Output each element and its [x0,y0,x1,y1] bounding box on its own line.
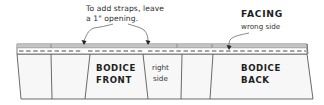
facing-title: FACING [241,9,283,18]
right-side-line1: right [152,63,169,74]
strap-callout-line2: a 1" opening. [86,14,164,24]
right-side-line2: side [152,74,169,85]
bodice-back-line1: BODICE [241,62,281,74]
strap-arrow-left [84,24,113,41]
bodice-front-line1: BODICE [96,62,136,74]
bodice-front-label: BODICE FRONT [96,62,136,86]
bodice-back-label: BODICE BACK [241,62,281,86]
strap-callout: To add straps, leave a 1" opening. [86,4,164,24]
facing-subtitle: wrong side [241,23,280,30]
bodice-facing-diagram: To add straps, leave a 1" opening. FACIN… [0,0,324,105]
bodice-back-line2: BACK [241,74,281,86]
strap-arrow-right [128,24,148,41]
bodice-front-line2: FRONT [96,74,136,86]
facing-top-strip [17,45,307,48]
right-side-label: right side [152,63,169,84]
strap-callout-line1: To add straps, leave [86,4,164,14]
